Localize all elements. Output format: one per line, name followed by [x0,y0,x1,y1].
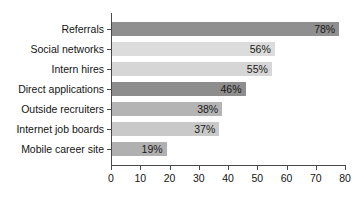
x-axis-tick [316,166,317,170]
bar-value-label: 46% [111,82,246,96]
bar-value-label: 37% [111,122,219,136]
horizontal-bar-chart: ReferralsSocial networksIntern hiresDire… [0,0,362,200]
x-axis-tick [228,166,229,170]
x-axis-tick [140,166,141,170]
x-axis-tick-label: 80 [333,172,357,184]
x-axis-tick-label: 10 [128,172,152,184]
x-axis-tick [170,166,171,170]
bar-value-label: 19% [111,142,167,156]
x-axis-tick-label: 60 [275,172,299,184]
x-axis-tick-label: 20 [158,172,182,184]
x-axis-tick-label: 50 [245,172,269,184]
x-axis-tick [287,166,288,170]
x-axis-tick [345,166,346,170]
bar-row: 56% [111,39,345,59]
bar-value-label: 78% [111,22,339,36]
x-axis-tick-label: 40 [216,172,240,184]
category-label: Referrals [61,19,104,39]
x-axis-tick-label: 30 [187,172,211,184]
bar-row: 46% [111,79,345,99]
bar-value-label: 56% [111,42,275,56]
category-label: Mobile career site [21,139,104,159]
category-label: Social networks [30,39,104,59]
x-axis-tick [111,166,112,170]
x-axis-tick-label: 0 [99,172,123,184]
category-label: Outside recruiters [21,99,104,119]
plot-area: 78%56%55%46%38%37%19% [111,13,345,165]
bar-row: 37% [111,119,345,139]
category-axis-labels: ReferralsSocial networksIntern hiresDire… [0,13,104,165]
category-label: Intern hires [51,59,104,79]
x-axis-tick [199,166,200,170]
x-axis-tick-label: 70 [304,172,328,184]
bar-row: 38% [111,99,345,119]
bar-row: 55% [111,59,345,79]
y-axis-line [111,13,112,165]
x-axis-tick [257,166,258,170]
category-label: Internet job boards [16,119,104,139]
bar-row: 78% [111,19,345,39]
category-label: Direct applications [18,79,104,99]
bar-value-label: 55% [111,62,272,76]
bar-row: 19% [111,139,345,159]
bar-value-label: 38% [111,102,222,116]
